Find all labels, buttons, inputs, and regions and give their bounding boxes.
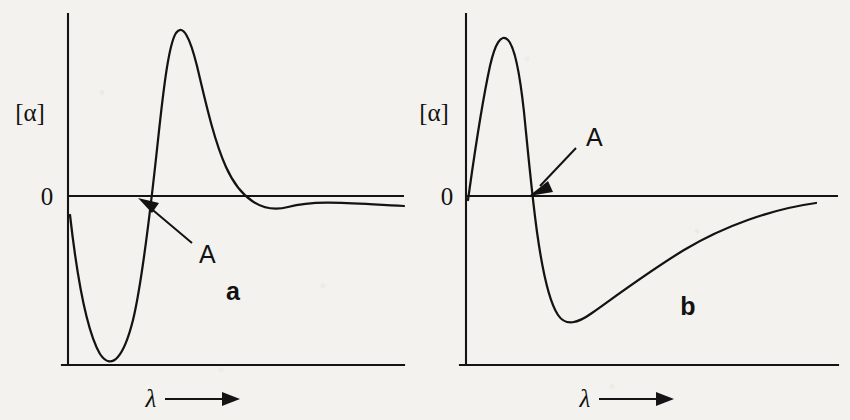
panel-b-letter: b [680, 292, 695, 320]
panel-a-lambda-arrowhead [222, 392, 240, 406]
panel-b-pointer-shaft [540, 148, 576, 186]
panel-a: [α] 0 A a λ [15, 14, 404, 412]
panel-b-zero-label: 0 [441, 183, 454, 210]
figure-container: [α] 0 A a λ [α] [0, 0, 850, 420]
panel-a-pointer-arrowhead [138, 198, 159, 213]
panel-b-ord-curve [468, 38, 816, 322]
panel-a-x-axis-label: λ [145, 385, 157, 412]
panel-a-annotation-label: A [199, 240, 216, 268]
panel-b-y-axis-label: [α] [419, 99, 449, 126]
panel-a-zero-label: 0 [41, 183, 54, 210]
panel-b-x-axis-label: λ [579, 385, 591, 412]
panel-b-lambda-arrowhead [656, 392, 674, 406]
panel-b-annotation-label: A [586, 123, 603, 151]
panel-b: [α] 0 A b λ [419, 14, 838, 412]
ord-figure-svg: [α] 0 A a λ [α] [0, 0, 850, 420]
panel-a-letter: a [226, 277, 241, 305]
panel-a-pointer-shaft [148, 206, 192, 243]
panel-a-y-axis-label: [α] [15, 99, 45, 126]
